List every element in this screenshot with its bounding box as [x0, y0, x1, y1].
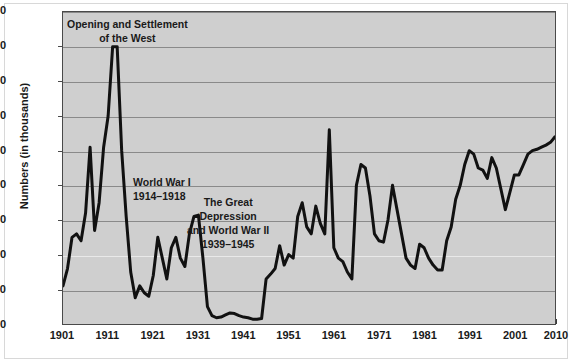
immigration-chart-figure: Numbers (in thousands) 45040035030025020…: [0, 0, 572, 362]
y-tick-label-150: 150: [0, 214, 6, 225]
annotation-line: Opening and Settlement: [67, 18, 188, 32]
annotation-line: World War I: [133, 176, 191, 190]
annotation-line: 1939–1945: [187, 238, 269, 252]
annotation-line: and World War II: [187, 224, 269, 238]
x-tick-label-2010: 2010: [526, 330, 572, 341]
annotation-line: of the West: [67, 32, 188, 46]
y-tick-label-450: 450: [0, 5, 6, 16]
x-tick-mark-2010: [556, 319, 557, 324]
y-tick-label-200: 200: [0, 179, 6, 190]
annotation-line: The Great: [187, 196, 269, 210]
annotation-line: Depression: [187, 210, 269, 224]
y-tick-label-100: 100: [0, 249, 6, 260]
y-tick-label-300: 300: [0, 110, 6, 121]
annotation-line: 1914–1918: [133, 190, 191, 204]
y-tick-label-400: 400: [0, 40, 6, 51]
y-tick-label-350: 350: [0, 75, 6, 86]
y-tick-label-0: 0: [0, 319, 6, 330]
plot-area: Opening and Settlementof the WestWorld W…: [62, 11, 556, 325]
annotation-world-war-one: World War I1914–1918: [133, 176, 191, 204]
y-axis-title: Numbers (in thousands): [18, 66, 30, 226]
y-tick-label-50: 50: [0, 284, 6, 295]
annotation-great-depression-ww2: The GreatDepressionand World War II1939–…: [187, 196, 269, 251]
data-line-series: [63, 12, 555, 324]
annotation-opening-west: Opening and Settlementof the West: [67, 18, 188, 46]
y-tick-label-250: 250: [0, 145, 6, 156]
